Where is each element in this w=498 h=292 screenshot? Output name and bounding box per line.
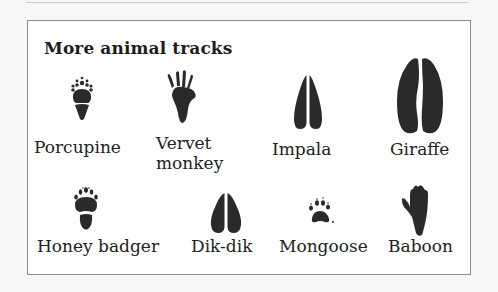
baboon-track-icon [400,183,432,237]
track-label-mongoose: Mongoose [279,236,368,256]
top-rule-divider [26,2,468,3]
track-label-porcupine: Porcupine [34,137,121,157]
impala-track-icon [290,73,326,131]
vervet-monkey-track-icon [165,69,201,125]
porcupine-track-icon [69,75,95,121]
mongoose-track-icon [307,195,337,227]
track-label-vervet: Vervet [156,133,211,153]
track-label-honey-badger: Honey badger [37,236,159,256]
track-label-impala: Impala [272,139,331,159]
dik-dik-track-icon [208,191,244,235]
track-label-baboon: Baboon [388,236,453,256]
animal-tracks-panel: More animal tracks Porcupine [27,20,471,275]
track-label-giraffe: Giraffe [390,139,449,159]
panel-title: More animal tracks [44,38,232,58]
honey-badger-track-icon [72,187,100,231]
track-label-monkey: monkey [156,153,223,173]
track-label-dik-dik: Dik-dik [191,236,252,256]
track-label-vervet-monkey: Vervet monkey [156,133,223,173]
giraffe-track-icon [395,57,445,135]
